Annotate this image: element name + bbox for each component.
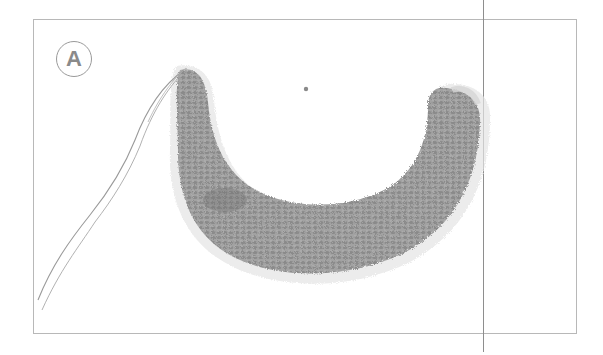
center-dot [304, 87, 308, 91]
figure-label: A [66, 46, 82, 72]
fabric-shadow [203, 188, 247, 212]
yarn-tail [38, 70, 184, 300]
figure-label-badge: A [56, 41, 92, 77]
